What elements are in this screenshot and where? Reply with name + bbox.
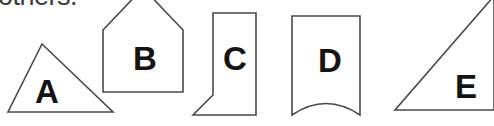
shapes-figure: others. A B C D E bbox=[0, 0, 494, 126]
shape-a-outline bbox=[8, 44, 113, 112]
shape-label-e: E bbox=[455, 70, 477, 103]
shape-e-outline bbox=[395, 0, 494, 110]
shape-label-b: B bbox=[133, 42, 157, 75]
shape-label-c: C bbox=[223, 42, 247, 75]
shape-label-a: A bbox=[35, 75, 59, 108]
shape-label-d: D bbox=[318, 44, 342, 77]
shape-layer bbox=[0, 0, 494, 126]
